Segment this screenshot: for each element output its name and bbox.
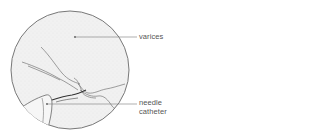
varices-label-text: varices (139, 32, 163, 41)
needle-catheter-label-line-2: catheter (139, 108, 167, 117)
needle-catheter-label: needle catheter (139, 99, 167, 116)
varices-label: varices (139, 33, 163, 42)
